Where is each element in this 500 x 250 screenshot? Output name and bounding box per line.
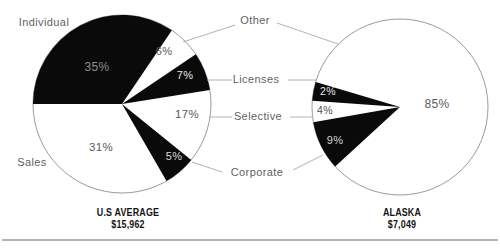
caption-us-average: U.S AVERAGE $15,962	[69, 207, 188, 230]
slice-pct-alaska-corporate: 9%	[327, 134, 344, 146]
caption-alaska: ALASKA $7,049	[343, 207, 462, 230]
caption-us-amount: $15,962	[111, 218, 144, 230]
label-selective: Selective	[218, 110, 298, 123]
slice-pct-us-average-corporate: 5%	[166, 150, 183, 162]
chart-figure: 35%6%7%17%5%31%85%9%4%2% Individual Sale…	[0, 0, 500, 250]
connector-line	[183, 25, 235, 42]
slice-pct-alaska-selective: 4%	[317, 104, 333, 116]
slice-pct-us-average-other: 6%	[156, 45, 173, 57]
slice-pct-alaska-other: 85%	[425, 97, 450, 111]
caption-us-name: U.S AVERAGE	[97, 206, 159, 218]
slice-pct-us-average-selective: 17%	[175, 108, 199, 120]
label-licenses: Licenses	[216, 73, 296, 86]
label-individual: Individual	[4, 16, 84, 29]
label-corporate: Corporate	[217, 166, 297, 179]
slice-pct-us-average-licenses: 7%	[177, 69, 194, 81]
connector-line	[293, 155, 323, 170]
label-other: Other	[215, 14, 295, 27]
caption-alaska-amount: $7,049	[388, 218, 416, 230]
pie-alaska: 85%9%4%2%	[312, 19, 488, 195]
slice-pct-alaska-licenses: 2%	[320, 85, 336, 97]
slice-pct-us-average-individual: 35%	[85, 60, 110, 74]
slice-pct-us-average-sales: 31%	[89, 141, 113, 153]
caption-alaska-name: ALASKA	[383, 206, 421, 218]
bottom-rule	[2, 239, 498, 241]
label-sales: Sales	[2, 156, 62, 169]
